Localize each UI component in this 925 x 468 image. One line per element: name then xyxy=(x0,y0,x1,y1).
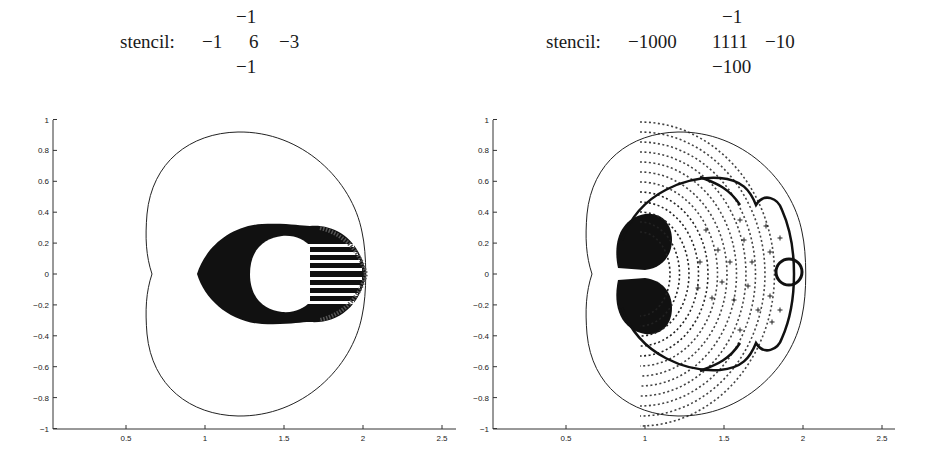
left-x-ticks: 0.511.522.5 xyxy=(120,425,448,443)
right-isolated-circle xyxy=(776,259,802,285)
svg-text:1: 1 xyxy=(485,116,490,125)
svg-text:0.2: 0.2 xyxy=(478,239,490,248)
right-plot: 10.80.60.40.20−0.2−0.4−0.6−0.8−1 0.511.5… xyxy=(473,116,895,444)
svg-text:0.6: 0.6 xyxy=(478,177,490,186)
svg-text:2.5: 2.5 xyxy=(436,434,448,443)
svg-text:0: 0 xyxy=(485,270,490,279)
svg-text:−0.2: −0.2 xyxy=(473,301,489,310)
left-plot: 10.80.60.40.20−0.2−0.4−0.6−0.8−1 0.511.5… xyxy=(33,116,456,444)
svg-text:0.2: 0.2 xyxy=(38,239,50,248)
svg-text:−0.4: −0.4 xyxy=(473,332,489,341)
svg-text:2.5: 2.5 xyxy=(876,434,888,443)
svg-text:−0.8: −0.8 xyxy=(33,394,49,403)
svg-text:0: 0 xyxy=(45,270,50,279)
right-eigenvalue-cloud xyxy=(616,122,802,426)
svg-text:0.5: 0.5 xyxy=(120,434,132,443)
svg-text:1: 1 xyxy=(643,434,648,443)
plots-canvas: 10.80.60.40.20−0.2−0.4−0.6−0.8−1 0.511.5… xyxy=(0,0,925,468)
svg-text:−0.4: −0.4 xyxy=(33,332,49,341)
left-eigenvalue-cloud xyxy=(197,224,366,324)
svg-text:0.4: 0.4 xyxy=(38,208,50,217)
svg-text:−0.6: −0.6 xyxy=(473,363,489,372)
svg-text:−1: −1 xyxy=(480,425,490,434)
right-x-ticks: 0.511.522.5 xyxy=(560,425,888,443)
right-stability-boundary xyxy=(586,132,806,416)
right-axes xyxy=(493,120,895,429)
svg-text:2: 2 xyxy=(801,434,806,443)
svg-text:0.4: 0.4 xyxy=(478,208,490,217)
svg-text:0.8: 0.8 xyxy=(38,146,50,155)
svg-text:1.5: 1.5 xyxy=(278,434,290,443)
svg-text:1.5: 1.5 xyxy=(718,434,730,443)
svg-text:−1: −1 xyxy=(40,425,50,434)
svg-text:1: 1 xyxy=(45,116,50,125)
svg-text:0.5: 0.5 xyxy=(560,434,572,443)
svg-text:0.6: 0.6 xyxy=(38,177,50,186)
svg-text:−0.2: −0.2 xyxy=(33,301,49,310)
svg-text:−0.8: −0.8 xyxy=(473,394,489,403)
svg-text:2: 2 xyxy=(361,434,366,443)
svg-text:−0.6: −0.6 xyxy=(33,363,49,372)
svg-text:1: 1 xyxy=(203,434,208,443)
svg-text:0.8: 0.8 xyxy=(478,146,490,155)
